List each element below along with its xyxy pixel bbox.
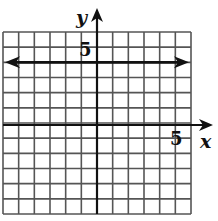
x-axis-label: x xyxy=(199,130,212,152)
x-tick-label-5: 5 xyxy=(170,128,183,149)
y-tick-label-5: 5 xyxy=(79,39,92,60)
y-axis-label: y xyxy=(75,6,89,28)
coordinate-plane: y x 5 5 xyxy=(0,0,218,221)
